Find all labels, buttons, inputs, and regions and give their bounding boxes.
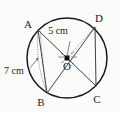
point-label-c: C	[93, 93, 100, 105]
chord-d-c	[95, 27, 96, 86]
point-label-a: A	[24, 18, 32, 30]
point-label-o: O	[63, 60, 71, 72]
diagonal-b-d	[47, 27, 95, 93]
measurement-label-radius: 5 cm	[48, 25, 68, 36]
leader-5cm	[67, 41, 70, 56]
figure-canvas: A D B C O 5 cm 7 cm	[0, 0, 121, 113]
point-label-d: D	[95, 12, 103, 24]
leader-7cm	[30, 58, 38, 68]
point-label-b: B	[37, 96, 44, 108]
chord-ab-measure-line	[40, 31, 46, 91]
measurement-label-chord: 7 cm	[4, 65, 24, 76]
geometry-figure: A D B C O 5 cm 7 cm	[0, 0, 121, 113]
chord-a-b	[38, 30, 47, 93]
